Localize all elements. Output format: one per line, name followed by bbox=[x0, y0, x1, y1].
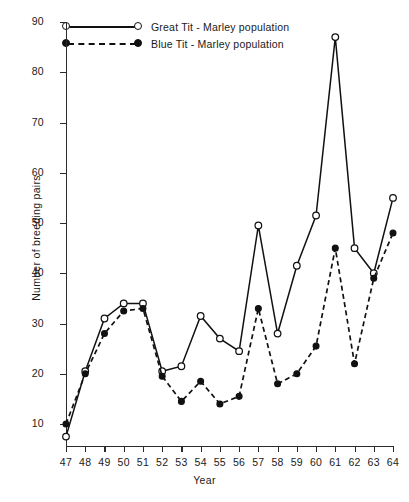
open-circle-marker-icon bbox=[390, 195, 397, 202]
open-circle-marker-icon bbox=[332, 34, 339, 41]
filled-circle-marker-icon bbox=[275, 381, 281, 387]
filled-circle-marker-icon bbox=[236, 393, 242, 399]
open-circle-marker-icon bbox=[255, 222, 262, 229]
open-circle-marker-icon bbox=[197, 313, 204, 320]
filled-circle-marker-icon bbox=[352, 361, 358, 367]
filled-circle-marker-icon bbox=[102, 331, 108, 337]
filled-circle-marker-icon bbox=[179, 398, 185, 404]
open-circle-marker-icon bbox=[294, 262, 301, 269]
series-line bbox=[66, 233, 393, 424]
filled-circle-marker-icon bbox=[390, 230, 396, 236]
plot-area bbox=[0, 0, 409, 502]
open-circle-marker-icon bbox=[217, 335, 224, 342]
open-circle-marker-icon bbox=[274, 330, 281, 337]
series-great-tit bbox=[63, 34, 397, 440]
series-blue-tit bbox=[63, 230, 396, 427]
filled-circle-marker-icon bbox=[313, 343, 319, 349]
series-line bbox=[66, 37, 393, 436]
filled-circle-marker-icon bbox=[198, 378, 204, 384]
filled-circle-marker-icon bbox=[332, 245, 338, 251]
open-circle-marker-icon bbox=[178, 363, 185, 370]
filled-circle-marker-icon bbox=[255, 306, 261, 312]
filled-circle-marker-icon bbox=[294, 371, 300, 377]
open-circle-marker-icon bbox=[63, 433, 70, 440]
open-circle-marker-icon bbox=[120, 300, 127, 307]
open-circle-marker-icon bbox=[313, 212, 320, 219]
open-circle-marker-icon bbox=[351, 245, 358, 252]
filled-circle-marker-icon bbox=[82, 371, 88, 377]
filled-circle-marker-icon bbox=[63, 421, 69, 427]
filled-circle-marker-icon bbox=[140, 306, 146, 312]
open-circle-marker-icon bbox=[101, 315, 108, 322]
filled-circle-marker-icon bbox=[121, 308, 127, 314]
open-circle-marker-icon bbox=[236, 348, 243, 355]
filled-circle-marker-icon bbox=[217, 401, 223, 407]
chart-container: Great Tit - Marley population Blue Tit -… bbox=[0, 0, 409, 502]
filled-circle-marker-icon bbox=[159, 373, 165, 379]
filled-circle-marker-icon bbox=[371, 275, 377, 281]
